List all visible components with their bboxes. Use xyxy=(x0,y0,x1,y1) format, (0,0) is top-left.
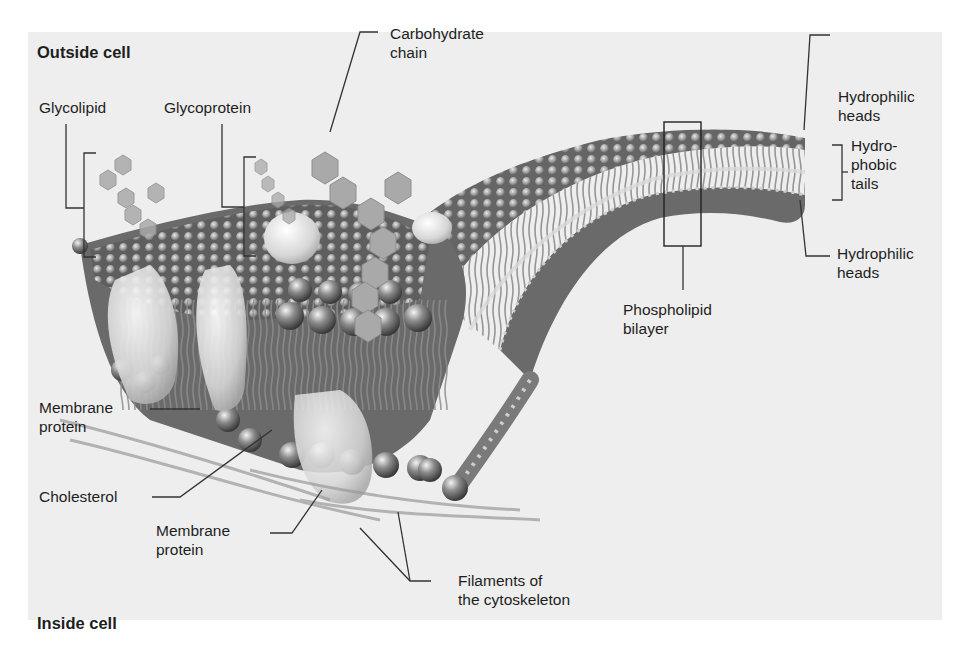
cell-membrane-illustration xyxy=(0,0,976,660)
inside-cell-label: Inside cell xyxy=(37,614,117,633)
hydrophilic-heads-bottom-label: Hydrophilic heads xyxy=(837,244,914,282)
filaments-line-2: the cytoskeleton xyxy=(458,590,570,609)
hydrophilic-heads-top-line-2: heads xyxy=(838,106,915,125)
hydrophobic-tails-line-1: Hydro- xyxy=(851,136,898,155)
membrane-protein-left-line-2: protein xyxy=(39,417,113,436)
carbohydrate-chain-line-2: chain xyxy=(390,43,484,62)
membrane-protein-bottom-label: Membrane protein xyxy=(156,521,230,559)
phospholipid-bilayer-line-1: Phospholipid xyxy=(623,300,712,319)
hydrophilic-heads-bottom-line-2: heads xyxy=(837,263,914,282)
cholesterol-label: Cholesterol xyxy=(39,487,117,506)
carbohydrate-chain-line-1: Carbohydrate xyxy=(390,24,484,43)
hydrophilic-heads-top-label: Hydrophilic heads xyxy=(838,87,915,125)
membrane-protein-bottom-line-1: Membrane xyxy=(156,521,230,540)
glycoprotein-label: Glycoprotein xyxy=(164,98,251,117)
hydrophilic-heads-top-line-1: Hydrophilic xyxy=(838,87,915,106)
hydrophobic-tails-line-2: phobic xyxy=(851,155,898,174)
carbohydrate-chain-label: Carbohydrate chain xyxy=(390,24,484,62)
phospholipid-bilayer-label: Phospholipid bilayer xyxy=(623,300,712,338)
outside-cell-label: Outside cell xyxy=(37,43,131,62)
filaments-cytoskeleton-label: Filaments of the cytoskeleton xyxy=(458,571,570,609)
filaments-line-1: Filaments of xyxy=(458,571,570,590)
membrane-protein-bottom-line-2: protein xyxy=(156,540,230,559)
hydrophilic-heads-bottom-line-1: Hydrophilic xyxy=(837,244,914,263)
membrane-protein-left-line-1: Membrane xyxy=(39,398,113,417)
membrane-protein-left-label: Membrane protein xyxy=(39,398,113,436)
hydrophobic-tails-line-3: tails xyxy=(851,174,898,193)
phospholipid-bilayer-line-2: bilayer xyxy=(623,319,712,338)
hydrophobic-tails-label: Hydro- phobic tails xyxy=(851,136,898,193)
glycolipid-label: Glycolipid xyxy=(39,98,106,117)
